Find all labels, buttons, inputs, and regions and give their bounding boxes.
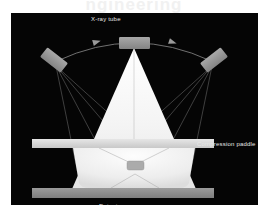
figure-page: ngineering (0, 0, 268, 209)
background-watermark: ngineering (0, 0, 268, 14)
x-ray-tube-center (119, 37, 150, 49)
label-detector: Detector (99, 203, 123, 205)
diagram-panel: X-ray tube Compression paddle Detector (11, 13, 258, 205)
label-compression-paddle: Compression paddle (197, 141, 256, 147)
tomosynthesis-diagram (11, 13, 258, 205)
compression-paddle (32, 139, 214, 148)
label-x-ray-tube: X-ray tube (91, 16, 121, 22)
lesion-marker (127, 161, 144, 170)
detector-panel (32, 188, 214, 198)
